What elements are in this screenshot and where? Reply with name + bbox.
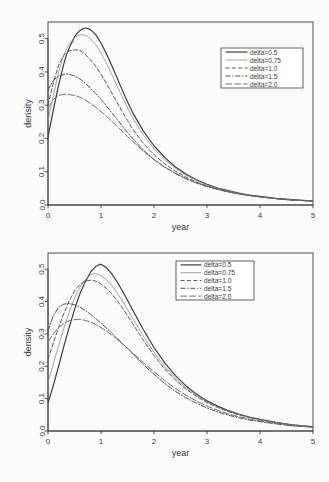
chart-panel-bottom: 012345year0.00.10.20.30.40.5densitydelta…: [0, 241, 329, 482]
density-curve: [48, 303, 313, 427]
x-axis-tick-label: 3: [205, 437, 210, 446]
density-curve: [48, 280, 313, 427]
legend-label: delta=0.5: [250, 49, 278, 56]
x-axis-tick-label: 4: [258, 437, 263, 446]
x-axis-tick-label: 1: [99, 211, 104, 220]
density-curve: [48, 319, 313, 427]
y-axis-tick-label: 0.5: [38, 263, 47, 275]
x-axis-label: year: [172, 222, 190, 232]
x-axis-tick-label: 2: [152, 211, 157, 220]
y-axis-tick-label: 0.3: [38, 99, 47, 111]
legend-label: delta=0.75: [204, 269, 235, 276]
legend-label: delta=1.0: [250, 65, 278, 72]
density-curve: [48, 94, 313, 201]
y-axis-tick-label: 0.4: [38, 295, 47, 307]
y-axis-label: density: [23, 327, 33, 356]
legend-label: delta=2.0: [250, 81, 278, 88]
legend-label: delta=2.0: [204, 293, 232, 300]
y-axis-tick-label: 0.5: [38, 33, 47, 45]
density-curve: [48, 74, 313, 201]
y-axis-tick-label: 0.4: [38, 66, 47, 78]
y-axis-tick-label: 0.2: [38, 132, 47, 144]
density-plot-top: 012345year0.00.10.20.30.40.5densitydelta…: [0, 0, 329, 241]
x-axis-tick-label: 0: [46, 437, 51, 446]
y-axis-tick-label: 0.2: [38, 360, 47, 372]
y-axis-label: density: [23, 99, 33, 128]
chart-panel-top: 012345year0.00.10.20.30.40.5densitydelta…: [0, 0, 329, 241]
legend-label: delta=0.75: [250, 57, 281, 64]
x-axis-tick-label: 4: [258, 211, 263, 220]
x-axis-tick-label: 2: [152, 437, 157, 446]
legend-label: delta=1.5: [204, 285, 232, 292]
x-axis-tick-label: 1: [99, 437, 104, 446]
legend-label: delta=0.5: [204, 261, 232, 268]
x-axis-tick-label: 5: [311, 437, 316, 446]
x-axis-tick-label: 5: [311, 211, 316, 220]
figure-page: 012345year0.00.10.20.30.40.5densitydelta…: [0, 0, 329, 482]
y-axis-tick-label: 0.0: [38, 425, 47, 437]
x-axis-tick-label: 0: [46, 211, 51, 220]
legend-label: delta=1.5: [250, 73, 278, 80]
x-axis-label: year: [172, 448, 190, 458]
y-axis-tick-label: 0.0: [38, 199, 47, 211]
density-plot-bottom: 012345year0.00.10.20.30.40.5densitydelta…: [0, 241, 329, 482]
y-axis-tick-label: 0.1: [38, 166, 47, 178]
x-axis-tick-label: 3: [205, 211, 210, 220]
legend-label: delta=1.0: [204, 277, 232, 284]
y-axis-tick-label: 0.1: [38, 393, 47, 405]
y-axis-tick-label: 0.3: [38, 328, 47, 340]
